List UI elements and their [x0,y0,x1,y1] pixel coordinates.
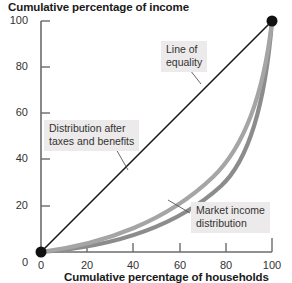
annotation-after-tax-distribution: Distribution after taxes and benefits [44,120,139,151]
y-tick-label-0: 0 [2,256,28,268]
y-tick-label-20: 20 [2,199,28,211]
y-tick-label-100: 100 [2,14,28,26]
x-tick-label-20: 20 [72,259,102,271]
y-tick-label-80: 80 [2,60,28,72]
annotation-line-of-equality-line2: equality [166,56,202,69]
x-tick-label-80: 80 [211,259,241,271]
annotation-market-income-distribution: Market income distribution [191,202,270,233]
annotation-after-tax-line2: taxes and benefits [49,135,134,148]
annotation-after-tax-line1: Distribution after [49,122,134,135]
y-tick-label-40: 40 [2,152,28,164]
y-tick-label-60: 60 [2,106,28,118]
leader-line-after-tax [116,149,128,170]
x-axis-title: Cumulative percentage of households [64,271,269,283]
x-tick-label-40: 40 [118,259,148,271]
origin-marker [36,247,47,258]
annotation-line-of-equality-line1: Line of [166,43,202,56]
leader-line-equality [190,70,201,84]
annotation-line-of-equality: Line of equality [161,41,207,72]
annotation-market-line1: Market income [196,204,265,217]
x-tick-label-100: 100 [257,259,287,271]
x-tick-label-0: 0 [26,259,56,271]
lorenz-curve-figure: Cumulative percentage of income 100 [0,0,292,283]
upper-endpoint-marker [267,16,278,27]
x-tick-label-60: 60 [165,259,195,271]
annotation-market-line2: distribution [196,217,265,230]
